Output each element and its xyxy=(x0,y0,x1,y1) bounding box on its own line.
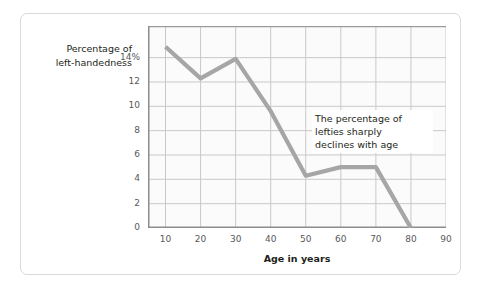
y-tick-label: 10 xyxy=(106,100,140,110)
y-tick-label: 14% xyxy=(106,52,140,62)
x-tick-label: 80 xyxy=(396,234,426,244)
x-axis-title: Age in years xyxy=(148,253,446,264)
x-tick-label: 40 xyxy=(256,234,286,244)
y-tick-label: 4 xyxy=(106,173,140,183)
chart-screenshot: Percentage of left-handedness 0246810121… xyxy=(0,0,480,289)
y-tick-label: 12 xyxy=(106,76,140,86)
x-tick-label: 70 xyxy=(361,234,391,244)
y-tick-label: 8 xyxy=(106,125,140,135)
x-tick-label: 90 xyxy=(431,234,461,244)
x-tick-label: 10 xyxy=(151,234,181,244)
chart-annotation: The percentage of lefties sharply declin… xyxy=(312,110,433,153)
y-tick-label: 2 xyxy=(106,198,140,208)
y-tick-label: 0 xyxy=(106,222,140,232)
x-tick-label: 50 xyxy=(291,234,321,244)
y-tick-label: 6 xyxy=(106,149,140,159)
x-tick-label: 60 xyxy=(326,234,356,244)
x-tick-label: 30 xyxy=(221,234,251,244)
x-tick-label: 20 xyxy=(186,234,216,244)
